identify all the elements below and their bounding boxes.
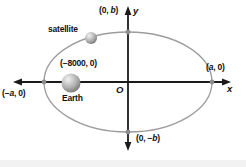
right-vertex-label: (a, 0)	[206, 63, 225, 72]
origin-label: O	[116, 85, 123, 95]
orbit-diagram: satellite (0, b) y (−8000, 0) (a, 0) x (…	[0, 0, 246, 167]
y-axis-top-arrow-icon	[125, 6, 132, 15]
left-vertex-label: (−a, 0)	[2, 89, 25, 98]
earth-sphere	[62, 74, 81, 93]
x-axis-left-arrow-icon	[13, 79, 22, 86]
earth-coordinate-label: (−8000, 0)	[60, 59, 97, 68]
y-axis-bottom-arrow-icon	[125, 142, 132, 151]
right-vertex-dot	[210, 80, 215, 85]
top-vertex-dot	[126, 30, 131, 35]
satellite-label-text: satellite	[48, 24, 78, 34]
earth-label: Earth	[62, 94, 83, 103]
bottom-vertex-label: (0, −b)	[136, 134, 160, 143]
top-vertex-label: (0, b)	[99, 6, 118, 15]
page-bottom-strip	[0, 160, 246, 167]
satellite-sphere	[85, 32, 97, 44]
x-axis-label: x	[227, 84, 232, 94]
bottom-vertex-dot	[126, 130, 131, 135]
y-axis-label: y	[133, 6, 138, 16]
satellite-label: satellite	[48, 25, 78, 34]
left-vertex-dot	[42, 80, 47, 85]
